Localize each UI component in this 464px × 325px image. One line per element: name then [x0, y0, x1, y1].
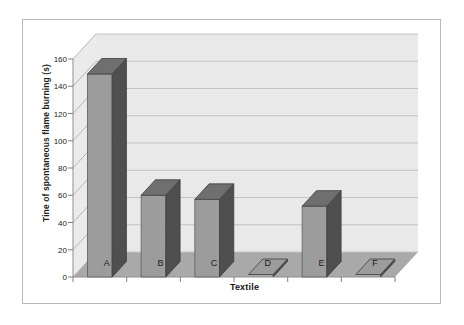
- bar-chart: 020406080100120140160 ABCDEF Tine of spo…: [23, 20, 442, 305]
- x-tick-label-e: E: [298, 258, 344, 268]
- y-tick-label: 0: [41, 273, 67, 282]
- x-tick-label-f: F: [352, 258, 398, 268]
- bar-a: [87, 58, 126, 277]
- chart-frame: 020406080100120140160 ABCDEF Tine of spo…: [22, 19, 441, 304]
- x-tick-label-c: C: [191, 258, 237, 268]
- x-tick-label-b: B: [137, 258, 183, 268]
- x-axis-title-text: Textile: [230, 282, 259, 292]
- bar-front-face: [87, 74, 112, 277]
- bar-side-face: [112, 58, 126, 277]
- x-tick-label-a: A: [84, 258, 130, 268]
- y-tick-label: 20: [41, 245, 67, 254]
- x-tick-label-d: D: [245, 258, 291, 268]
- x-axis-title: Textile: [23, 282, 442, 292]
- y-axis-title: Tine of spontaneous flame burning (s): [41, 48, 51, 238]
- y-tick-marks: [68, 59, 73, 277]
